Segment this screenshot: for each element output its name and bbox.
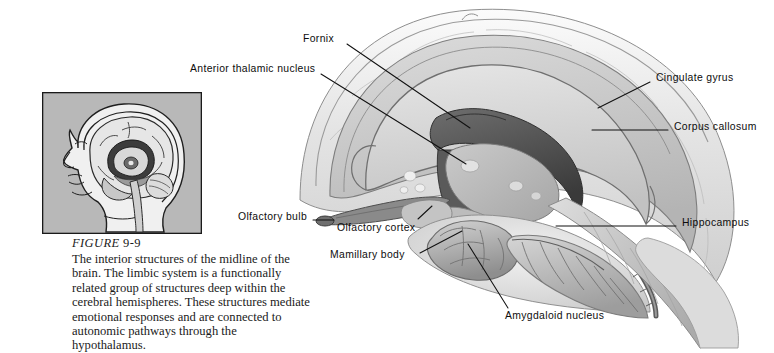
label-hippocampus: Hippocampus <box>682 217 749 228</box>
label-olfactory-bulb: Olfactory bulb <box>238 211 307 222</box>
anterior-thalamic-nucleus-structure <box>461 160 479 172</box>
label-cingulate-gyrus-text: Cingulate gyrus <box>656 72 733 83</box>
label-olfactory-cortex: Olfactory cortex <box>337 222 415 233</box>
label-olfactory-cortex-text: Olfactory cortex <box>337 222 415 233</box>
figure-caption-text: The interior structures of the midline o… <box>72 252 312 353</box>
figure-number-word: FIGURE <box>72 236 120 250</box>
label-amygdaloid-nucleus: Amygdaloid nucleus <box>505 310 604 321</box>
label-corpus-callosum-text: Corpus callosum <box>674 121 757 132</box>
figure-number-id: 9-9 <box>123 236 141 250</box>
label-fornix: Fornix <box>303 33 334 44</box>
label-amygdaloid-nucleus-text: Amygdaloid nucleus <box>505 310 604 321</box>
figure-number: FIGURE 9-9 <box>72 236 312 251</box>
label-hippocampus-text: Hippocampus <box>682 217 749 228</box>
label-corpus-callosum: Corpus callosum <box>674 121 757 132</box>
figure-caption-block: FIGURE 9-9 The interior structures of th… <box>72 236 312 353</box>
label-cingulate-gyrus: Cingulate gyrus <box>656 72 733 83</box>
label-anterior-thalamic-nucleus-text: Anterior thalamic nucleus <box>190 63 315 74</box>
label-olfactory-bulb-text: Olfactory bulb <box>238 211 307 222</box>
label-anterior-thalamic-nucleus: Anterior thalamic nucleus <box>190 63 315 74</box>
label-mamillary-body: Mamillary body <box>330 249 405 260</box>
head-midsagittal-orientation-inset <box>42 92 202 234</box>
label-mamillary-body-text: Mamillary body <box>330 249 405 260</box>
label-fornix-text: Fornix <box>303 33 334 44</box>
